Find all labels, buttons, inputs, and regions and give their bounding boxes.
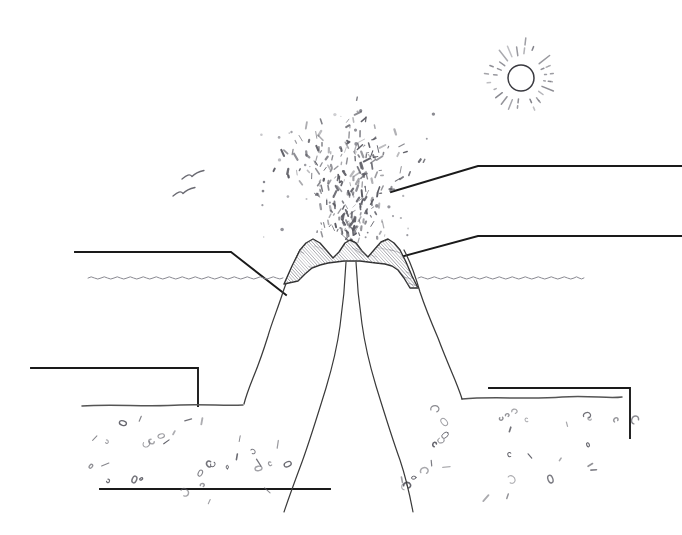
ash-fleck: [394, 129, 396, 134]
callout-upper-right[interactable]: [391, 166, 682, 192]
ash-fleck: [294, 154, 298, 160]
sediment-mark: [163, 440, 170, 444]
seafloor: [82, 396, 640, 503]
sediment-mark: [283, 461, 292, 468]
ash-fleck: [370, 216, 371, 218]
sediment-mark: [559, 458, 562, 461]
rim-hatch-line: [150, 236, 208, 300]
ash-fleck: [360, 213, 361, 215]
ash-fleck: [400, 167, 401, 174]
ash-fleck: [299, 135, 302, 141]
rim-hatch-line: [156, 236, 214, 300]
ash-speck: [364, 145, 365, 146]
rim-hatch-cross: [383, 275, 396, 280]
ash-fleck: [316, 156, 317, 160]
sediment-mark: [431, 406, 439, 413]
ash-fleck: [358, 143, 359, 148]
ash-speck: [432, 112, 435, 115]
sediment-mark: [207, 500, 211, 504]
sediment-mark: [88, 464, 93, 469]
ash-fleck: [320, 180, 321, 181]
rim-hatch-line: [377, 236, 435, 300]
ash-speck: [406, 234, 408, 236]
sediment-mark: [106, 479, 110, 483]
sediment-mark: [226, 465, 228, 469]
ash-speck: [262, 190, 265, 193]
ash-speck: [278, 158, 281, 161]
ash-fleck: [400, 177, 403, 179]
ash-speck: [333, 113, 336, 116]
sediment-mark: [276, 440, 280, 448]
ash-fleck: [375, 172, 377, 177]
ash-fleck: [297, 170, 298, 175]
sun-ray: [517, 47, 518, 56]
ash-fleck: [372, 163, 373, 169]
ash-fleck: [342, 201, 343, 203]
ash-speck: [365, 236, 367, 238]
ash-fleck: [374, 125, 375, 128]
sun-ray: [501, 97, 507, 105]
sun-rays: [485, 38, 554, 110]
sediment-mark: [440, 417, 449, 427]
ash-fleck: [357, 97, 358, 100]
ash-fleck: [316, 194, 317, 195]
ash-fleck: [345, 147, 347, 152]
rim-hatch-cross: [414, 268, 428, 272]
sun-ray: [524, 48, 525, 54]
ash-fleck: [335, 177, 336, 179]
callout-lower-right[interactable]: [393, 236, 682, 259]
ash-fleck: [353, 205, 356, 208]
sun-ray: [539, 101, 540, 103]
ash-fleck: [359, 139, 365, 142]
diagram-canvas: [0, 0, 682, 535]
seafloor-left: [82, 405, 243, 406]
ash-speck: [260, 134, 263, 137]
sea-surface: [88, 277, 584, 279]
ash-speck: [346, 140, 348, 142]
ash-fleck: [300, 181, 303, 185]
ash-speck: [407, 228, 409, 230]
ash-speck: [343, 170, 345, 172]
ash-speck: [261, 204, 263, 206]
sediment-mark: [411, 476, 416, 480]
sediment-mark: [588, 464, 593, 467]
water-line-left: [88, 277, 283, 279]
sediment-mark: [238, 436, 241, 442]
rim-hatch-line: [182, 236, 240, 300]
rim-hatch-line: [236, 236, 294, 300]
sediment-mark: [200, 418, 204, 424]
rim-hatch-line: [166, 236, 224, 300]
sun-ray: [548, 66, 550, 67]
sediment-mark: [101, 463, 109, 466]
ash-fleck: [354, 233, 356, 235]
ash-fleck: [307, 170, 309, 172]
ash-speck: [288, 132, 290, 134]
ash-fleck: [318, 131, 321, 136]
ash-fleck: [399, 144, 404, 147]
rim-hatch-line: [448, 236, 506, 300]
ash-speck: [340, 116, 341, 117]
ash-fleck: [329, 214, 331, 217]
sun-ray: [525, 38, 526, 45]
ash-fleck: [284, 150, 288, 153]
ash-fleck: [366, 153, 368, 154]
callout-bottom-left[interactable]: [31, 368, 198, 406]
ash-fleck: [348, 233, 349, 237]
ash-fleck: [321, 185, 322, 191]
ash-fleck: [334, 214, 335, 215]
ash-speck: [304, 164, 307, 167]
seagull-icon: [182, 171, 204, 180]
rim-hatch-line: [227, 236, 285, 300]
sediment-mark: [139, 477, 143, 480]
ash-fleck: [354, 173, 359, 177]
ash-speck: [400, 217, 402, 219]
ash-speck: [426, 138, 428, 140]
ash-speck: [326, 199, 327, 200]
ash-speck: [392, 215, 394, 217]
ash-fleck: [334, 191, 337, 197]
sun-ray: [539, 56, 549, 64]
sediment-mark: [197, 469, 203, 477]
ash-fleck: [347, 142, 349, 144]
rim-hatch-line: [195, 236, 253, 300]
callout-left[interactable]: [75, 252, 286, 295]
